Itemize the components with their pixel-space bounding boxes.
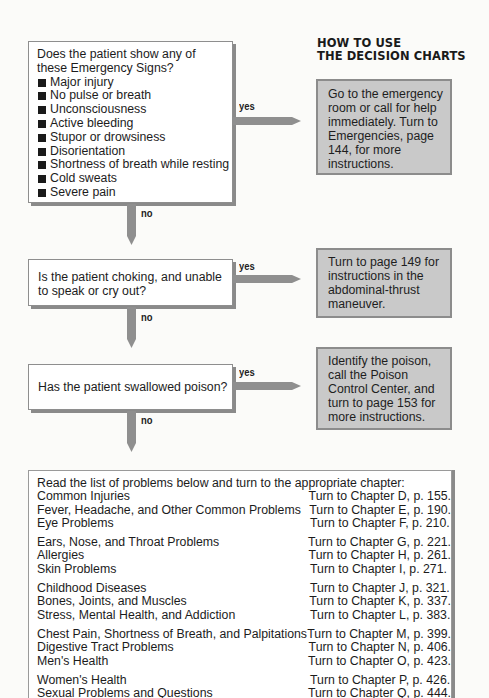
chapter-row: Childhood DiseasesTurn to Chapter J, p. … (37, 582, 451, 595)
emergency-signs-question-box: Does the patient show any of these Emerg… (28, 41, 233, 203)
bullet-square-icon (38, 189, 46, 197)
no-arrow-icon (125, 307, 139, 349)
chapter-row: Sexual Problems and QuestionsTurn to Cha… (37, 687, 451, 698)
yes-arrow-icon (233, 114, 303, 128)
bullet-square-icon (38, 120, 46, 128)
chapter-row: Eye ProblemsTurn to Chapter F, p. 210. (37, 517, 451, 530)
no-label: no (141, 207, 153, 219)
chapter-directory-box: Read the list of problems below and turn… (28, 470, 452, 698)
chapter-row: Skin ProblemsTurn to Chapter I, p. 271. (37, 563, 451, 576)
list-item: Stupor or drowsiness (37, 131, 232, 145)
poison-action-box: Identify the poison, call the Poison Con… (316, 347, 452, 430)
chapter-row: Ears, Nose, and Throat ProblemsTurn to C… (37, 536, 451, 549)
list-item: Major injury (37, 76, 232, 90)
chapter-group: Ears, Nose, and Throat ProblemsTurn to C… (37, 536, 451, 576)
heading-line-1: HOW TO USE (317, 37, 466, 50)
chapter-intro: Read the list of problems below and turn… (37, 477, 451, 490)
chapter-row: Women's HealthTurn to Chapter P, p. 426. (37, 674, 451, 687)
chapter-group: Common InjuriesTurn to Chapter D, p. 155… (37, 490, 451, 530)
yes-label: yes (239, 366, 255, 378)
choking-action-box: Turn to page 149 for instructions in the… (316, 248, 452, 318)
bullet-square-icon (38, 161, 46, 169)
chapter-row: Bones, Joints, and MusclesTurn to Chapte… (37, 595, 451, 608)
bullet-square-icon (38, 79, 46, 87)
bullet-square-icon (38, 175, 46, 183)
bullet-square-icon (38, 148, 46, 156)
yes-arrow-icon (233, 272, 303, 286)
heading-line-2: THE DECISION CHARTS (317, 50, 466, 63)
question-prompt: Does the patient show any of these Emerg… (37, 48, 227, 76)
yes-label: yes (239, 260, 255, 272)
no-label: no (141, 311, 153, 323)
bullet-square-icon (38, 92, 46, 100)
list-item: No pulse or breath (37, 89, 232, 103)
emergency-action-box: Go to the emergency room or call for hel… (316, 79, 452, 175)
emergency-signs-list: Major injury No pulse or breath Unconsci… (37, 76, 232, 200)
list-item: Shortness of breath while resting (37, 158, 232, 172)
chapter-group: Women's HealthTurn to Chapter P, p. 426.… (37, 674, 451, 698)
chapter-row: Men's HealthTurn to Chapter O, p. 423. (37, 655, 451, 668)
no-arrow-icon (125, 204, 139, 246)
chapter-group: Chest Pain, Shortness of Breath, and Pal… (37, 628, 451, 668)
choking-question-box: Is the patient choking, and unable to sp… (28, 259, 233, 306)
no-arrow-icon (125, 411, 139, 453)
no-label: no (141, 414, 153, 426)
list-item: Cold sweats (37, 172, 232, 186)
list-item: Unconsciousness (37, 103, 232, 117)
list-item: Disorientation (37, 145, 232, 159)
chapter-row: Chest Pain, Shortness of Breath, and Pal… (37, 628, 451, 641)
bullet-square-icon (38, 106, 46, 114)
bullet-square-icon (38, 134, 46, 142)
poison-question-box: Has the patient swallowed poison? (28, 364, 233, 410)
chapter-row: Fever, Headache, and Other Common Proble… (37, 504, 451, 517)
chapter-row: Digestive Tract ProblemsTurn to Chapter … (37, 641, 451, 654)
page-heading: HOW TO USE THE DECISION CHARTS (317, 37, 466, 62)
yes-arrow-icon (233, 379, 303, 393)
chapter-row: AllergiesTurn to Chapter H, p. 261. (37, 549, 451, 562)
list-item: Active bleeding (37, 117, 232, 131)
chapter-row: Common InjuriesTurn to Chapter D, p. 155… (37, 490, 451, 503)
chapter-row: Stress, Mental Health, and AddictionTurn… (37, 609, 451, 622)
yes-label: yes (239, 100, 255, 112)
chapter-group: Childhood DiseasesTurn to Chapter J, p. … (37, 582, 451, 622)
list-item: Severe pain (37, 186, 232, 200)
